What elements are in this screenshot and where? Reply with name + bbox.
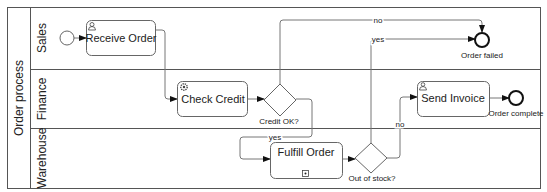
lane-label-finance: Finance [35, 77, 49, 120]
task-check-credit[interactable]: Check Credit [178, 82, 248, 117]
gateway-label-out-of-stock: Out of stock? [348, 174, 396, 183]
end-event-label-order-failed: Order failed [461, 51, 503, 60]
task-receive-order[interactable]: Receive Order [86, 21, 157, 56]
subprocess-expand-icon[interactable] [303, 171, 309, 177]
task-label: Check Credit [181, 93, 245, 105]
bpmn-diagram: Order process Sales Finance Warehouse no… [0, 0, 547, 192]
gateway-label-credit-ok: Credit OK? [259, 117, 299, 126]
lane-label-warehouse: Warehouse [35, 127, 49, 188]
lane-label-sales: Sales [35, 23, 49, 53]
pool-label: Order process [12, 60, 26, 136]
end-event-order-failed[interactable] [475, 33, 489, 47]
task-fulfill-order[interactable]: Fulfill Order [271, 143, 343, 179]
end-event-label-order-complete: Order complete [488, 109, 544, 118]
end-event-order-complete[interactable] [509, 91, 523, 105]
task-send-invoice[interactable]: Send Invoice [418, 82, 490, 117]
start-event[interactable] [60, 31, 74, 45]
flow-label-credit-yes: yes [269, 133, 281, 142]
task-label: Receive Order [86, 32, 157, 44]
task-label: Send Invoice [421, 92, 485, 104]
flow-label-credit-no: no [374, 16, 383, 25]
flow-label-stock-no: no [396, 120, 405, 129]
flow-label-stock-yes: yes [372, 35, 384, 44]
task-label: Fulfill Order [278, 146, 335, 158]
